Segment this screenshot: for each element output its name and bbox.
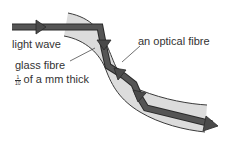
arrowhead-entry bbox=[36, 20, 46, 34]
label-light-wave: light wave bbox=[12, 39, 61, 50]
optical-fibre-diagram: light wave glass fibre 1 10 of a mm thic… bbox=[0, 0, 227, 144]
leader-line-optical-fibre bbox=[122, 46, 140, 62]
label-optical-fibre: an optical fibre bbox=[138, 36, 210, 47]
thickness-fraction: 1 10 bbox=[15, 75, 21, 86]
leader-line-glass-fibre bbox=[70, 48, 95, 61]
label-glass-fibre: glass fibre bbox=[15, 60, 65, 71]
label-thickness: 1 10 of a mm thick bbox=[15, 74, 89, 86]
arrowhead-exit bbox=[203, 116, 218, 131]
fraction-denominator: 10 bbox=[15, 81, 21, 86]
diagram-graphic bbox=[0, 0, 227, 144]
thickness-text: of a mm thick bbox=[24, 73, 89, 85]
